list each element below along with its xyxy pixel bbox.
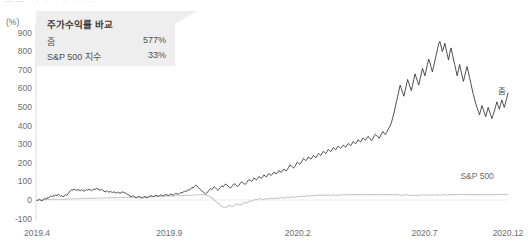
legend-name-sp500: S&P 500 지수 bbox=[47, 50, 101, 63]
legend-name-zoom: 줌 bbox=[47, 35, 55, 48]
legend-value-zoom: 577% bbox=[143, 35, 166, 45]
legend-title: 주가수익률 바교 bbox=[47, 17, 113, 31]
legend-box: 주가수익률 바교 줌 577% S&P 500 지수 33% bbox=[36, 11, 175, 66]
x-axis-tick-2019.4: 2019.4 bbox=[17, 228, 57, 238]
series-label-sp500: S&P 500 bbox=[460, 171, 493, 181]
x-axis-tick-2019.9: 2019.9 bbox=[149, 228, 189, 238]
x-axis-tick-2020.7: 2020.7 bbox=[405, 228, 445, 238]
legend-value-sp500: 33% bbox=[148, 50, 166, 60]
x-axis-tick-2020.2: 2020.2 bbox=[278, 228, 318, 238]
series-label-zoom: 줌 bbox=[498, 84, 506, 96]
series-line-sp500 bbox=[37, 194, 508, 208]
x-axis-tick-2020.12: 2020.12 bbox=[488, 228, 528, 238]
legend-callout-tail bbox=[175, 11, 197, 24]
